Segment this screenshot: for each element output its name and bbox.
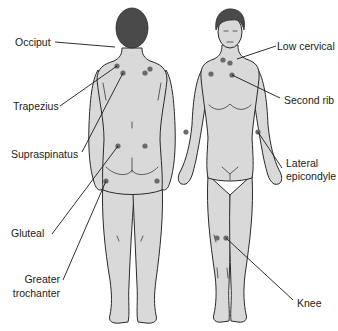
tender-point-supraspinatus-right bbox=[142, 143, 147, 148]
label-lateral-epicondyle-line2: epicondyle bbox=[286, 170, 336, 182]
leader-low-cervical bbox=[237, 46, 276, 59]
back-right-leg bbox=[133, 180, 163, 323]
back-torso bbox=[97, 48, 167, 195]
tender-point-trapezius-right bbox=[142, 70, 147, 75]
front-left-leg bbox=[207, 175, 230, 322]
label-knee: Knee bbox=[297, 297, 322, 309]
tender-points-diagram: Occiput Trapezius Supraspinatus Gluteal … bbox=[0, 0, 338, 331]
front-right-leg bbox=[230, 175, 253, 322]
label-second-rib: Second rib bbox=[284, 94, 334, 106]
leader-greater-trochanter bbox=[63, 181, 106, 280]
leader-occiput bbox=[55, 42, 115, 47]
back-left-leg bbox=[102, 180, 134, 323]
label-lateral-epicondyle-line1: Lateral bbox=[286, 157, 318, 169]
tender-point-epicondyle-left bbox=[183, 129, 188, 134]
tender-point-knee-left bbox=[214, 235, 219, 240]
tender-point-gluteal-right bbox=[154, 178, 159, 183]
label-greater-trochanter-line2: trochanter bbox=[13, 287, 61, 299]
tender-point-low-cervical-right bbox=[227, 60, 232, 65]
label-low-cervical: Low cervical bbox=[277, 40, 335, 52]
back-view-figure bbox=[89, 8, 176, 323]
tender-point-low-cervical-left bbox=[220, 57, 225, 62]
label-supraspinatus: Supraspinatus bbox=[11, 148, 78, 160]
label-occiput: Occiput bbox=[15, 36, 51, 48]
labels: Occiput Trapezius Supraspinatus Gluteal … bbox=[11, 36, 336, 309]
tender-point-second-rib-left bbox=[208, 71, 213, 76]
tender-point-occiput-right bbox=[147, 66, 152, 71]
label-trapezius: Trapezius bbox=[13, 100, 59, 112]
label-gluteal: Gluteal bbox=[11, 227, 44, 239]
back-head-hair bbox=[116, 8, 148, 48]
label-greater-trochanter-line1: Greater bbox=[24, 273, 60, 285]
